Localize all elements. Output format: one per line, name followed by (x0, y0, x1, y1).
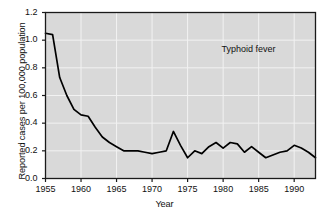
y-tick-label: 0.4 (10, 117, 38, 127)
x-tick-label: 1990 (279, 184, 309, 194)
y-axis-label: Reported cases per 100,000 population (17, 21, 27, 181)
series-annotation-typhoid-fever: Typhoid fever (222, 44, 276, 54)
x-axis-label: Year (0, 199, 329, 209)
x-tick-label: 1955 (31, 184, 61, 194)
x-tick-label: 1980 (208, 184, 238, 194)
y-tick-label: 1.0 (10, 34, 38, 44)
x-tick-label: 1960 (66, 184, 96, 194)
x-tick-label: 1985 (244, 184, 274, 194)
chart-figure: Reported cases per 100,000 population Ye… (0, 0, 329, 214)
y-tick-label: 0.2 (10, 145, 38, 155)
x-tick-label: 1975 (173, 184, 203, 194)
y-tick-label: 1.2 (10, 7, 38, 17)
x-tick-label: 1965 (102, 184, 132, 194)
y-tick-label: 0.6 (10, 90, 38, 100)
plot-area (0, 0, 329, 214)
x-tick-label: 1970 (137, 184, 167, 194)
y-tick-label: 0.8 (10, 62, 38, 72)
y-tick-label: 0.0 (10, 173, 38, 183)
